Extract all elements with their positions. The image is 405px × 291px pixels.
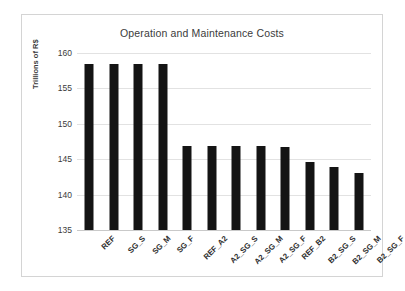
x-tick-label-text: REF_A2: [202, 234, 230, 262]
bar[interactable]: [207, 146, 216, 230]
bar[interactable]: [183, 146, 192, 230]
bar-slot: [126, 53, 151, 230]
x-tick-label-REF_A2: REF_A2: [202, 234, 230, 262]
x-tick-label-SG_S: SG_S: [126, 234, 147, 255]
bar-slot: [298, 53, 323, 230]
bar-slot: [347, 53, 372, 230]
x-axis-ticks: REFSG_SSG_MSG_FREF_A2A2_SG_SA2_SG_MA2_SG…: [77, 230, 371, 290]
y-tick-label-150: 150: [58, 119, 72, 129]
bar-slot: [200, 53, 225, 230]
bar-slot: [322, 53, 347, 230]
plot-area: 135140145150155160 REFSG_SSG_MSG_FREF_A2…: [77, 53, 371, 230]
y-tick-label-155: 155: [58, 83, 72, 93]
bar[interactable]: [134, 64, 143, 230]
y-axis-title: Trillions of R$: [31, 0, 40, 89]
bar-slot: [273, 53, 298, 230]
bar-slot: [77, 53, 102, 230]
bar-slot: [175, 53, 200, 230]
bar-slot: [151, 53, 176, 230]
chart-frame: Operation and Maintenance Costs Trillion…: [21, 14, 383, 277]
bar[interactable]: [109, 64, 118, 230]
chart-page: Operation and Maintenance Costs Trillion…: [0, 0, 405, 291]
bar[interactable]: [330, 167, 339, 230]
bar[interactable]: [85, 64, 94, 230]
y-tick-label-135: 135: [58, 225, 72, 235]
x-tick-label-SG_M: SG_M: [151, 234, 173, 256]
bar-slot: [224, 53, 249, 230]
bar-slot: [102, 53, 127, 230]
bar[interactable]: [305, 162, 314, 230]
bar[interactable]: [281, 147, 290, 230]
y-tick-label-145: 145: [58, 154, 72, 164]
x-tick-label-text: SG_F: [175, 234, 196, 255]
x-tick-label-text: SG_M: [151, 234, 173, 256]
bar[interactable]: [232, 146, 241, 230]
chart-title: Operation and Maintenance Costs: [22, 27, 382, 39]
y-tick-label-140: 140: [58, 190, 72, 200]
bar-slot: [249, 53, 274, 230]
x-tick-label-text: REF: [100, 234, 117, 251]
bar[interactable]: [354, 173, 363, 230]
bar[interactable]: [158, 64, 167, 230]
bar-series: [77, 53, 371, 230]
x-tick-label-text: SG_S: [126, 234, 147, 255]
x-tick-label-REF: REF: [100, 234, 117, 251]
x-tick-label-SG_F: SG_F: [175, 234, 196, 255]
bar[interactable]: [256, 146, 265, 230]
y-tick-label-160: 160: [58, 48, 72, 58]
